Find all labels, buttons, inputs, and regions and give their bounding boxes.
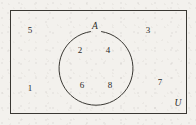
venn-diagram-canvas	[0, 0, 196, 125]
set-a-label: A	[92, 22, 98, 32]
element-outside-a: 5	[28, 26, 33, 35]
universal-set-rectangle	[11, 11, 187, 114]
element-outside-a: 3	[146, 26, 151, 35]
element-outside-a: 1	[28, 84, 33, 93]
element-inside-a: 4	[106, 46, 111, 55]
universal-set-label: U	[175, 99, 182, 109]
element-outside-a: 7	[158, 78, 163, 87]
element-inside-a: 2	[78, 46, 83, 55]
element-inside-a: 6	[80, 81, 85, 90]
element-inside-a: 8	[108, 81, 113, 90]
venn-diagram-figure: A U 2 4 6 8 5 3 1 7	[0, 0, 196, 125]
set-a-circle	[59, 32, 133, 106]
